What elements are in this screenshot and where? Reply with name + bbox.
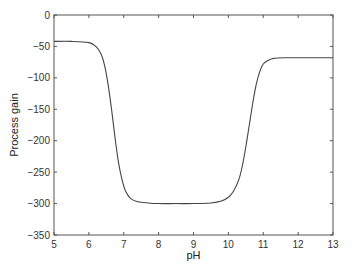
x-tick-label: 10 — [223, 239, 235, 250]
x-tick-label: 11 — [258, 239, 269, 250]
y-tick-label: −50 — [33, 41, 50, 52]
x-tick-label: 8 — [156, 239, 162, 250]
y-tick-label: −350 — [27, 230, 50, 241]
x-tick-label: 6 — [86, 239, 92, 250]
y-tick-label: −250 — [27, 167, 50, 178]
x-tick-label: 13 — [327, 239, 339, 250]
y-tick-label: 0 — [44, 10, 50, 21]
chart: 5678910111213 0−50−100−150−200−250−300−3… — [0, 0, 352, 266]
y-tick-label: −100 — [27, 72, 50, 83]
y-tick-label: −150 — [27, 104, 50, 115]
x-tick-label: 5 — [51, 239, 57, 250]
x-tick-label: 7 — [121, 239, 127, 250]
plot-frame — [54, 15, 333, 235]
plot-area: 5678910111213 0−50−100−150−200−250−300−3… — [27, 10, 339, 251]
x-axis-label: pH — [186, 249, 200, 261]
y-tick-label: −300 — [27, 198, 50, 209]
x-tick-label: 12 — [293, 239, 305, 250]
y-axis-label: Process gain — [8, 93, 20, 157]
y-tick-label: −200 — [27, 135, 50, 146]
